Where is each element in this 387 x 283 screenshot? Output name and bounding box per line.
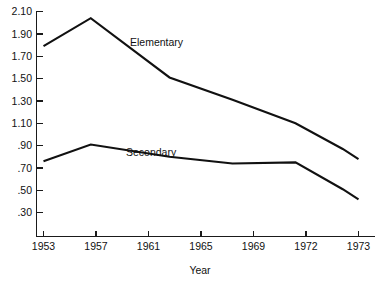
series-label-elementary: Elementary (130, 36, 184, 48)
series-label-secondary: Secondary (126, 146, 177, 158)
x-tick-label: 1953 (32, 240, 56, 252)
y-tick-labels: 2.10 1.90 1.70 1.50 1.30 1.10 .90 .70 .5… (12, 5, 33, 218)
series-line-elementary (44, 18, 359, 159)
y-tick-label: .50 (17, 184, 32, 196)
x-tick-label: 1972 (294, 240, 318, 252)
y-tick-label: 1.90 (12, 28, 33, 40)
y-tick-label: 2.10 (12, 5, 33, 17)
y-tick-label: .70 (17, 162, 32, 174)
x-tick-label: 1961 (137, 240, 161, 252)
y-tick-label: 1.10 (12, 117, 33, 129)
y-tick-label: 1.50 (12, 72, 33, 84)
line-chart: 2.10 1.90 1.70 1.50 1.30 1.10 .90 .70 .5… (0, 0, 387, 283)
x-tick-marks (44, 231, 359, 237)
chart-container: 2.10 1.90 1.70 1.50 1.30 1.10 .90 .70 .5… (0, 0, 387, 283)
series-line-secondary (44, 145, 359, 200)
x-tick-label: 1957 (84, 240, 108, 252)
x-axis-title: Year (189, 264, 211, 276)
y-tick-marks (37, 12, 43, 213)
x-tick-label: 1965 (189, 240, 213, 252)
y-tick-label: .90 (17, 139, 32, 151)
x-tick-label: 1969 (242, 240, 266, 252)
y-tick-label: 1.30 (12, 95, 33, 107)
y-tick-label: .30 (17, 206, 32, 218)
x-tick-label: 1973 (347, 240, 371, 252)
x-tick-labels: 1953 1957 1961 1965 1969 1972 1973 (32, 240, 371, 252)
y-tick-label: 1.70 (12, 50, 33, 62)
